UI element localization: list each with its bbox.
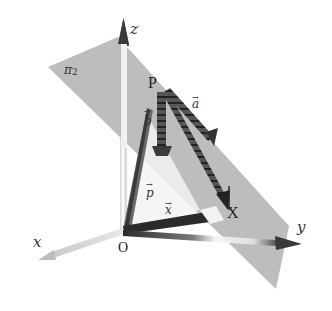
vector-b-arrow: → <box>144 107 151 116</box>
x-arrowhead-icon <box>38 250 56 260</box>
vector-plane-diagram: z x y π2 P X O a → b → p → x → <box>0 0 332 311</box>
point-p-label: P <box>148 74 157 91</box>
z-axis-front <box>121 38 127 148</box>
point-x-label: X <box>227 204 239 221</box>
origin-label: O <box>118 240 128 255</box>
z-axis-label: z <box>129 20 138 38</box>
y-axis-label: y <box>296 218 306 236</box>
vector-p-arrow: → <box>146 180 153 189</box>
vector-a-arrow: → <box>192 93 199 102</box>
vector-x-arrow: → <box>165 199 172 208</box>
vector-b-label: b <box>144 114 152 128</box>
x-axis-label: x <box>33 233 42 251</box>
y-arrowhead-icon <box>275 236 302 250</box>
x-axis <box>38 228 125 260</box>
